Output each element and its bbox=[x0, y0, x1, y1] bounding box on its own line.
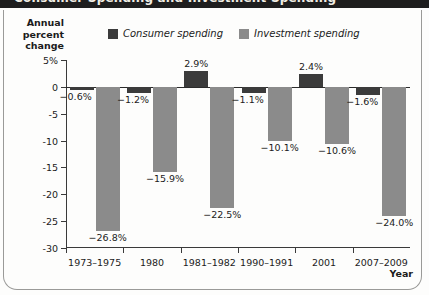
legend-swatch-icon bbox=[108, 29, 118, 39]
y-axis-tick-label: -5 bbox=[49, 108, 58, 119]
bar-value-label: −26.8% bbox=[89, 232, 127, 243]
legend-item: Investment spending bbox=[239, 28, 360, 39]
x-axis-tick bbox=[123, 248, 124, 253]
bar-value-label: 2.9% bbox=[184, 58, 208, 69]
bar-value-label: −1.2% bbox=[117, 94, 149, 105]
y-axis-tick-label: 0 bbox=[52, 81, 58, 92]
y-axis-tick-label: -10 bbox=[42, 135, 58, 146]
bar-investment[interactable] bbox=[325, 87, 349, 144]
bar-value-label: −0.6% bbox=[60, 91, 92, 102]
x-axis-tick-label: 2001 bbox=[312, 257, 336, 268]
bar-value-label: −1.6% bbox=[346, 96, 378, 107]
legend-item: Consumer spending bbox=[108, 28, 223, 39]
y-axis-tick-label: -15 bbox=[42, 162, 58, 173]
legend-label: Consumer spending bbox=[123, 28, 223, 39]
x-axis-tick-label: 2007–2009 bbox=[355, 257, 408, 268]
bar-consumer[interactable] bbox=[127, 87, 151, 93]
bar-consumer[interactable] bbox=[356, 87, 380, 96]
x-axis-tick-label: 1980 bbox=[140, 257, 164, 268]
y-axis-line bbox=[66, 60, 67, 248]
bar-value-label: −10.6% bbox=[318, 145, 356, 156]
y-axis-tick bbox=[61, 167, 66, 168]
bar-investment[interactable] bbox=[153, 87, 177, 172]
x-axis-tick bbox=[295, 248, 296, 253]
title-band: Consumer Spending and Investment Spendin… bbox=[0, 0, 429, 8]
y-axis-tick bbox=[61, 114, 66, 115]
chart-title: Consumer Spending and Investment Spendin… bbox=[14, 0, 336, 5]
bar-investment[interactable] bbox=[210, 87, 234, 208]
legend-label: Investment spending bbox=[254, 28, 360, 39]
bar-investment[interactable] bbox=[382, 87, 406, 216]
y-axis-tick-label: -20 bbox=[42, 189, 58, 200]
bar-value-label: −15.9% bbox=[146, 173, 184, 184]
y-axis-tick-label: 5% bbox=[43, 55, 58, 66]
y-axis-tick bbox=[61, 141, 66, 142]
x-axis-tick-label: 1973–1975 bbox=[68, 257, 121, 268]
bar-value-label: 2.4% bbox=[299, 61, 323, 72]
x-axis-tick bbox=[238, 248, 239, 253]
x-axis-tick-label: 1990–1991 bbox=[240, 257, 293, 268]
x-axis-tick bbox=[353, 248, 354, 253]
y-axis-tick bbox=[61, 221, 66, 222]
bar-consumer[interactable] bbox=[184, 71, 208, 87]
y-axis-title: Annual percent change bbox=[8, 17, 64, 52]
bar-consumer[interactable] bbox=[299, 74, 323, 87]
chart-legend: Consumer spendingInvestment spending bbox=[108, 28, 360, 39]
y-axis-tick bbox=[61, 194, 66, 195]
bar-value-label: −1.1% bbox=[232, 94, 264, 105]
bar-consumer[interactable] bbox=[242, 87, 266, 93]
x-axis-tick bbox=[181, 248, 182, 253]
y-axis-tick bbox=[61, 60, 66, 61]
bar-value-label: −10.1% bbox=[261, 142, 299, 153]
bar-value-label: −22.5% bbox=[203, 209, 241, 220]
bar-value-label: −24.0% bbox=[375, 217, 413, 228]
plot-area: 5%0-5-10-15-20-25-301973–1975−0.6%−26.8%… bbox=[66, 60, 410, 248]
chart-figure: Consumer Spending and Investment Spendin… bbox=[0, 0, 429, 295]
bar-investment[interactable] bbox=[268, 87, 292, 141]
x-axis-title: Year bbox=[389, 268, 413, 279]
x-axis-tick bbox=[66, 248, 67, 253]
bar-investment[interactable] bbox=[96, 87, 120, 231]
y-axis-tick-label: -25 bbox=[42, 216, 58, 227]
y-axis-tick bbox=[61, 87, 66, 88]
bar-consumer[interactable] bbox=[70, 87, 94, 90]
y-axis-tick-label: -30 bbox=[42, 243, 58, 254]
legend-swatch-icon bbox=[239, 29, 249, 39]
x-axis-tick-label: 1981–1982 bbox=[183, 257, 236, 268]
